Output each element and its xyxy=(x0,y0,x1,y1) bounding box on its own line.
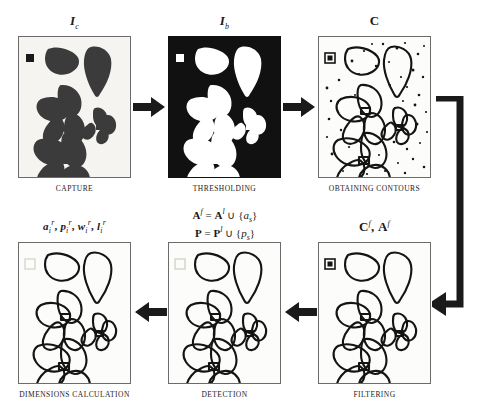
panel-thresholding-symbol: Ib xyxy=(168,14,281,31)
calibration-square-core xyxy=(328,56,333,61)
panel-thresholding: Ib THRESHOLDING xyxy=(168,14,281,200)
capture-photo-svg xyxy=(19,37,131,178)
contours-svg xyxy=(319,37,431,178)
pipeline-figure: Ic xyxy=(0,0,480,416)
arrow-capture-to-thresholding xyxy=(133,95,167,119)
calibration-square-core xyxy=(328,262,333,267)
panel-dimensions-image xyxy=(18,242,131,384)
panel-obtaining-contours: C xyxy=(318,14,431,200)
panel-filtering-caption: FILTERING xyxy=(318,390,431,399)
arrow-filtering-to-detection xyxy=(283,300,317,324)
panel-contours-symbol: C xyxy=(318,14,431,28)
panel-capture: Ic xyxy=(18,14,131,200)
dimensions-contours-svg xyxy=(19,243,131,384)
panel-thresholding-image xyxy=(168,36,281,178)
calibration-square xyxy=(176,54,184,62)
arrow-contours-to-filtering xyxy=(432,96,480,324)
panel-thresholding-caption: THRESHOLDING xyxy=(168,184,281,193)
arrow-detection-to-dimensions xyxy=(133,300,167,324)
panel-dimensions-symbol: air, pir, wir, lir xyxy=(18,219,131,235)
calibration-square xyxy=(26,54,34,62)
panel-contours-caption: OBTAINING CONTOURS xyxy=(318,184,431,193)
panel-dimensions-calculation: air, pir, wir, lir DIMENSIONS CALCULATIO… xyxy=(18,220,131,406)
panel-dimensions-caption: DIMENSIONS CALCULATION xyxy=(18,390,131,399)
panel-capture-symbol: Ic xyxy=(18,14,131,31)
filtering-contours-svg xyxy=(319,243,431,384)
panel-capture-caption: CAPTURE xyxy=(18,184,131,193)
panel-detection-image xyxy=(168,242,281,384)
panel-capture-image xyxy=(18,36,131,178)
panel-contours-image xyxy=(318,36,431,178)
panel-detection: DETECTION xyxy=(168,220,281,406)
panel-filtering-symbol: Cf, Af xyxy=(318,220,431,234)
detection-contours-svg xyxy=(169,243,281,384)
binary-image-svg xyxy=(169,37,281,178)
panel-filtering: Cf, Af FILTERING xyxy=(318,220,431,406)
panel-filtering-image xyxy=(318,242,431,384)
arrow-thresholding-to-contours xyxy=(283,95,317,119)
panel-detection-caption: DETECTION xyxy=(168,390,281,399)
